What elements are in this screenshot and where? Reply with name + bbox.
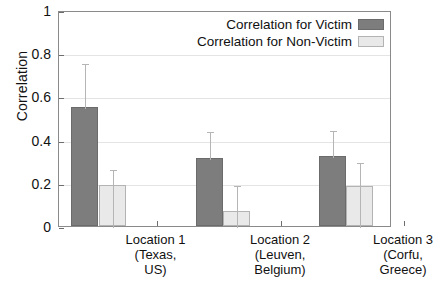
plot-area: Correlation for Victim Correlation for N… <box>58 11 391 227</box>
error-bar-victim-group-1 <box>85 64 86 109</box>
y-tick-mark <box>59 12 64 13</box>
y-tick-mark <box>59 185 64 186</box>
y-tick-label: 0.8 <box>0 47 51 61</box>
bar-victim-group-3 <box>319 156 346 226</box>
x-tick-mark <box>404 221 405 226</box>
legend-label-non-victim: Correlation for Non-Victim <box>197 34 352 49</box>
error-cap-nonvictim-group-1 <box>110 170 117 171</box>
legend-item-non-victim: Correlation for Non-Victim <box>197 34 384 49</box>
error-bar-victim-group-2 <box>210 132 211 160</box>
x-category-label-2: Location 2(Leuven,Belgium) <box>220 232 340 277</box>
x-category-line: Location 3 <box>343 232 437 247</box>
y-tick-label: 0.6 <box>0 90 51 104</box>
y-tick-mark <box>59 55 64 56</box>
y-tick-label: 0.2 <box>0 177 51 191</box>
y-tick-label: 0.4 <box>0 134 51 148</box>
bar-victim-group-1 <box>71 107 98 226</box>
x-tick-mark <box>281 221 282 226</box>
bar-victim-group-2 <box>196 158 223 226</box>
error-cap-nonvictim-group-2 <box>234 186 241 187</box>
chart-legend: Correlation for Victim Correlation for N… <box>193 15 386 51</box>
gridline <box>59 55 390 56</box>
x-category-line: Location 1 <box>96 232 216 247</box>
gridline <box>59 98 390 99</box>
x-category-line: Belgium) <box>220 262 340 277</box>
error-bar-nonvictim-group-2 <box>237 186 238 228</box>
x-category-line: (Leuven, <box>220 247 340 262</box>
legend-label-victim: Correlation for Victim <box>226 17 352 32</box>
y-tick-mark <box>59 228 64 229</box>
x-category-label-1: Location 1(Texas,US) <box>96 232 216 277</box>
legend-swatch-victim <box>358 19 384 30</box>
error-cap-nonvictim-group-3 <box>357 163 364 164</box>
error-cap-victim-group-3 <box>330 131 337 132</box>
y-tick-label: 1 <box>0 4 51 18</box>
legend-item-victim: Correlation for Victim <box>226 17 384 32</box>
gridline <box>59 142 390 143</box>
error-bar-victim-group-3 <box>333 131 334 158</box>
x-category-line: Greece) <box>343 262 437 277</box>
error-bar-nonvictim-group-3 <box>360 163 361 228</box>
error-bar-nonvictim-group-1 <box>113 170 114 228</box>
error-cap-victim-group-2 <box>207 132 214 133</box>
x-category-line: (Texas, <box>96 247 216 262</box>
y-tick-mark <box>59 98 64 99</box>
x-category-label-3: Location 3(Corfu,Greece) <box>343 232 437 277</box>
x-tick-mark <box>157 221 158 226</box>
y-axis-ticks: 00.20.40.60.81 <box>0 11 58 227</box>
x-category-line: US) <box>96 262 216 277</box>
y-tick-mark <box>59 142 64 143</box>
legend-swatch-non-victim <box>358 36 384 47</box>
x-category-line: Location 2 <box>220 232 340 247</box>
error-cap-victim-group-1 <box>82 64 89 65</box>
y-tick-label: 0 <box>0 220 51 234</box>
x-category-line: (Corfu, <box>343 247 437 262</box>
